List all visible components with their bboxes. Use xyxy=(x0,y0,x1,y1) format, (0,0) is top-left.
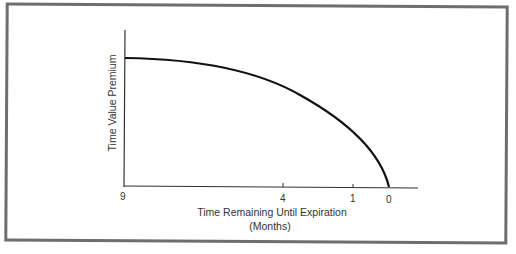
x-tick-label-4: 4 xyxy=(280,193,286,204)
time-value-chart: 9 4 1 0 Time Remaining Until Expiration … xyxy=(0,0,516,254)
y-axis xyxy=(124,30,125,187)
x-tick-label-1: 1 xyxy=(350,193,356,204)
x-tick-label-0: 0 xyxy=(386,194,392,205)
x-axis-title: Time Remaining Until Expiration xyxy=(197,206,347,218)
time-value-curve xyxy=(125,58,389,187)
y-axis-title: Time Value Premium xyxy=(106,54,118,151)
x-tick-label-9: 9 xyxy=(120,191,126,202)
x-axis xyxy=(124,186,418,188)
x-axis-subtitle: (Months) xyxy=(249,220,290,232)
